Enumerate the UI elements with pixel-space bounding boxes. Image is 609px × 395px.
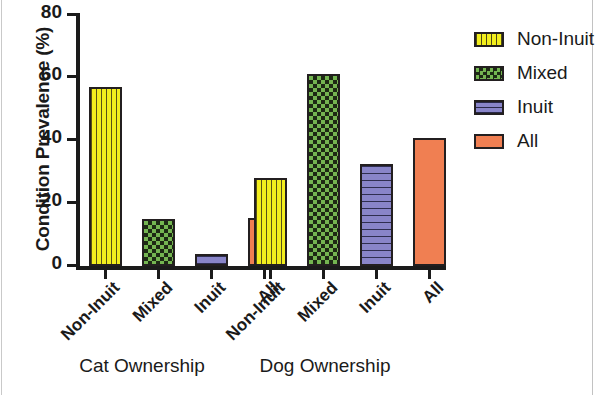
- plot-area: 0 20 40 60 80: [76, 13, 446, 266]
- bar-dog-all: [413, 138, 446, 266]
- legend-label-mixed: Mixed: [517, 62, 568, 84]
- y-tick-20: 20: [67, 201, 76, 204]
- bar-cat-inuit: [195, 254, 228, 266]
- x-tick-dog-mixed: [322, 270, 325, 279]
- x-tick-cat-non-inuit: [104, 270, 107, 279]
- legend-item-mixed: Mixed: [474, 56, 604, 90]
- legend-swatch-all: [474, 134, 504, 149]
- legend-label-non-inuit: Non-Inuit: [517, 28, 594, 50]
- legend-label-all: All: [517, 130, 538, 152]
- legend-item-all: All: [474, 124, 604, 158]
- bar-dog-non-inuit: [254, 178, 287, 266]
- legend-swatch-mixed: [474, 66, 504, 81]
- legend-item-inuit: Inuit: [474, 90, 604, 124]
- chart-legend: Non-Inuit Mixed Inuit All: [474, 22, 604, 158]
- x-tick-cat-mixed: [157, 270, 160, 279]
- y-tick-40: 40: [67, 138, 76, 141]
- y-tick-0: 0: [67, 264, 76, 267]
- y-tick-label-20: 20: [41, 189, 62, 211]
- x-axis-line: [76, 266, 446, 270]
- bar-dog-inuit: [360, 164, 393, 266]
- bar-dog-mixed: [307, 74, 340, 266]
- legend-item-non-inuit: Non-Inuit: [474, 22, 604, 56]
- y-tick-label-0: 0: [51, 252, 62, 274]
- y-tick-label-60: 60: [41, 63, 62, 85]
- y-axis-line: [76, 13, 80, 266]
- group-label-cat: Cat Ownership: [62, 355, 222, 377]
- bar-cat-non-inuit: [89, 87, 122, 266]
- y-tick-label-80: 80: [41, 1, 62, 23]
- bar-chart-figure: Condition Prevalence (%) 0 20 40 60 80: [0, 0, 609, 395]
- group-label-dog: Dog Ownership: [245, 355, 405, 377]
- x-tick-cat-inuit: [210, 270, 213, 279]
- legend-swatch-non-inuit: [474, 32, 504, 47]
- y-tick-label-40: 40: [41, 126, 62, 148]
- y-tick-60: 60: [67, 75, 76, 78]
- x-tick-dog-all: [428, 270, 431, 279]
- legend-label-inuit: Inuit: [517, 96, 553, 118]
- x-tick-dog-inuit: [375, 270, 378, 279]
- bar-cat-mixed: [142, 219, 175, 266]
- x-tick-cat-all: [263, 270, 266, 279]
- legend-swatch-inuit: [474, 100, 504, 115]
- page-edge-line-left: [1, 0, 2, 395]
- y-tick-80: 80: [67, 13, 76, 16]
